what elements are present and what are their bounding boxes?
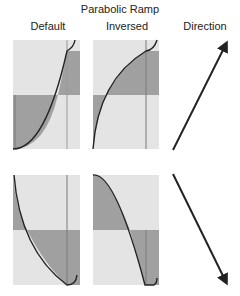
arrow-down-icon	[173, 174, 226, 282]
ramp-diagram	[0, 0, 240, 296]
panel-default-falling	[13, 175, 80, 285]
panel-default-rising	[13, 40, 80, 149]
panel-inversed-rising	[93, 40, 159, 149]
panel-inversed-falling	[93, 175, 159, 285]
arrow-up-icon	[173, 44, 226, 150]
